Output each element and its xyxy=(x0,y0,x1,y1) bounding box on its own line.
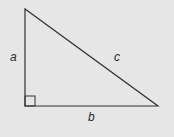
side-label-c: c xyxy=(114,50,120,64)
side-label-a: a xyxy=(10,50,17,64)
right-angle-marker xyxy=(25,96,35,106)
diagram-canvas: a c b xyxy=(0,0,174,137)
right-triangle-diagram: a c b xyxy=(0,0,174,137)
side-label-b: b xyxy=(88,110,95,124)
triangle-shape xyxy=(25,9,158,106)
